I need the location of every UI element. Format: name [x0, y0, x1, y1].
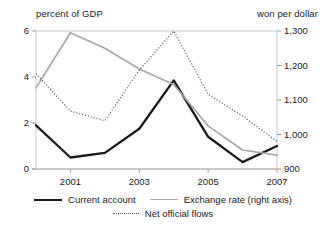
x-tick-label: 2005 [198, 176, 219, 187]
series-line-exchange-rate [36, 33, 277, 155]
x-tick-label: 2007 [266, 176, 287, 187]
y2-tick-label: 1,200 [284, 60, 308, 71]
legend-item-net-official-flows: Net official flows [113, 208, 213, 219]
y-tick-label: 0 [24, 163, 29, 174]
chart-legend: Current account Exchange rate (right axi… [0, 194, 326, 219]
y2-tick-label: 1,000 [284, 129, 308, 140]
line-swatch-icon [150, 199, 178, 200]
legend-row-2: Net official flows [113, 208, 213, 219]
series-line-net-official-flows [36, 31, 277, 141]
legend-label: Current account [68, 194, 136, 205]
legend-item-current-account: Current account [34, 194, 136, 205]
y2-tick-label: 1,100 [284, 94, 308, 105]
y-tick-label: 2 [24, 117, 29, 128]
x-tick-label: 2003 [129, 176, 150, 187]
y-tick-label: 6 [24, 25, 29, 36]
legend-label: Net official flows [145, 208, 213, 219]
y2-tick-label: 1,300 [284, 25, 308, 36]
chart-figure: percent of GDP won per dollar 02469001,0… [0, 0, 326, 233]
legend-item-exchange-rate: Exchange rate (right axis) [150, 194, 292, 205]
line-swatch-icon [34, 199, 62, 201]
line-swatch-icon [113, 213, 139, 214]
legend-row-1: Current account Exchange rate (right axi… [34, 194, 292, 205]
y-tick-label: 4 [24, 71, 29, 82]
x-tick-label: 2001 [60, 176, 81, 187]
legend-label: Exchange rate (right axis) [184, 194, 292, 205]
y2-tick-label: 900 [284, 163, 300, 174]
